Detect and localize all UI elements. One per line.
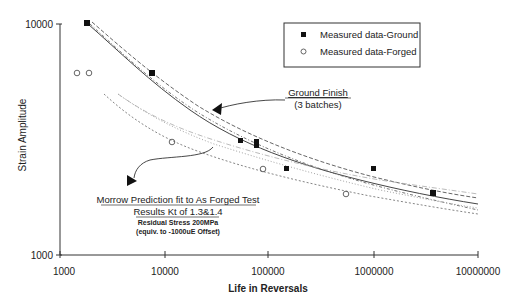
morrow-label-line3: Residual Stress 200MPa [138, 219, 219, 226]
morrow-label-line1: Morrow Prediction fit to As Forged Test [97, 194, 260, 205]
sn-chart: 10000 1000 1000 10000 100000 1000000 100… [0, 0, 516, 302]
x-tick-label: 10000 [151, 266, 179, 277]
morrow-annotation: Morrow Prediction fit to As Forged Test … [97, 147, 260, 236]
legend-label-forged: Measured data-Forged [320, 46, 417, 57]
y-axis-title: Strain Amplitude [17, 98, 28, 171]
forged-point [86, 70, 92, 76]
x-tick-label: 1000000 [355, 266, 394, 277]
ground-point [149, 70, 155, 76]
ground-point [254, 143, 259, 148]
x-tick-label: 1000 [53, 266, 76, 277]
axes: 10000 1000 1000 10000 100000 1000000 100… [17, 19, 501, 294]
ground-leader-line [214, 100, 285, 110]
ground-point [84, 20, 90, 26]
ground-point [371, 166, 376, 171]
arrowhead-icon [212, 103, 222, 115]
ground-point [430, 190, 436, 196]
forged-point [74, 70, 80, 76]
legend: Measured data-Ground Measured data-Forge… [284, 23, 420, 67]
forged-point [169, 139, 175, 145]
morrow-label-line2: Results Kt of 1.3&1.4 [133, 206, 222, 217]
x-axis-title: Life in Reversals [228, 283, 308, 294]
ground-point [284, 166, 289, 171]
x-tick-label: 10000000 [456, 266, 501, 277]
y-tick-label: 10000 [25, 19, 53, 30]
morrow-leader-line [134, 147, 213, 178]
ground-finish-annotation: Ground Finish (3 batches) [212, 87, 351, 115]
filled-square-icon [301, 32, 306, 37]
morrow-label-line4: (equiv. to -1000uE Offset) [136, 228, 220, 236]
legend-label-ground: Measured data-Ground [320, 29, 418, 40]
arrowhead-icon [127, 175, 137, 186]
forged-point [260, 166, 266, 172]
ground-finish-title: Ground Finish [288, 87, 348, 98]
y-tick-label: 1000 [31, 250, 54, 261]
x-tick-label: 100000 [251, 266, 285, 277]
ground-point [238, 138, 243, 143]
forged-point [343, 191, 349, 197]
ground-finish-subtitle: (3 batches) [294, 99, 342, 110]
morrow-curve-kt14 [118, 94, 478, 208]
